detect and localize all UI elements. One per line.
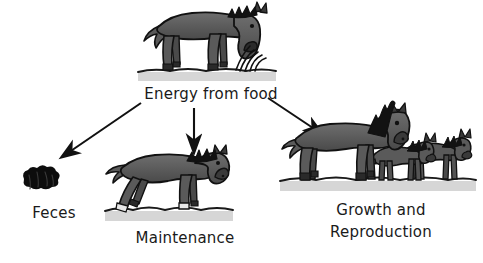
growth-label-line2: Reproduction xyxy=(314,222,448,244)
grazing-horse-icon xyxy=(136,0,286,84)
mare-and-foals-icon xyxy=(278,103,478,198)
growth-label-line1: Growth and xyxy=(314,200,448,222)
maintenance-label: Maintenance xyxy=(130,228,240,250)
walking-horse-icon xyxy=(103,143,238,225)
feces-blob-icon xyxy=(18,165,62,195)
feces-label: Feces xyxy=(14,203,94,225)
energy-partitioning-diagram: Energy from food Feces xyxy=(0,0,483,263)
